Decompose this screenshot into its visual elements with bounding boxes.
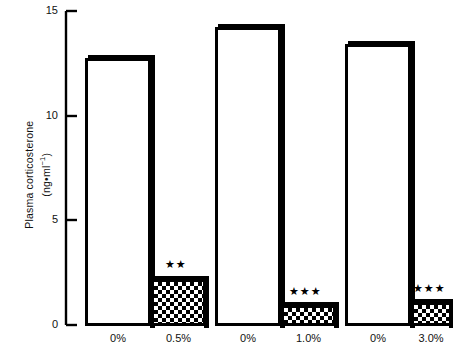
x-label-group2-control: 0% — [215, 332, 281, 344]
x-label-group1-control: 0% — [85, 332, 151, 344]
bar-group1-treated[interactable] — [151, 279, 206, 326]
bar-group3-treated[interactable] — [411, 302, 452, 326]
x-label-group3-treated: 3.0% — [406, 332, 453, 344]
significance-stars-group2: ★★★ — [289, 286, 322, 297]
chart-container: Plasma corticosterone (ng•ml−1) 15 10 5 … — [0, 0, 453, 353]
bar-group1-control[interactable] — [85, 58, 151, 326]
bar-group3-control[interactable] — [345, 44, 411, 326]
x-label-group2-treated: 1.0% — [281, 332, 336, 344]
x-label-group1-treated: 0.5% — [151, 332, 206, 344]
significance-stars-group3: ★★★ — [413, 283, 446, 294]
x-label-group3-control: 0% — [345, 332, 411, 344]
significance-stars-group1: ★★ — [165, 259, 187, 270]
bar-group2-treated[interactable] — [281, 305, 336, 326]
bar-group2-control[interactable] — [215, 27, 281, 326]
